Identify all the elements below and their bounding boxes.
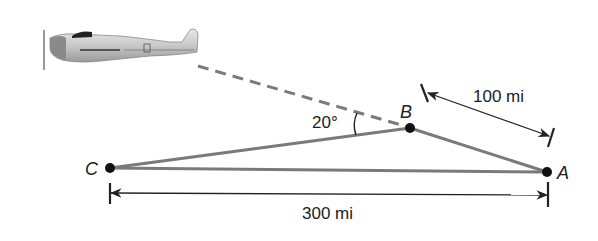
dimension-CA bbox=[111, 193, 547, 195]
line-of-sight bbox=[198, 66, 408, 127]
point-label-B: B bbox=[400, 103, 412, 121]
point-A bbox=[542, 167, 552, 177]
distance-label-BA: 100 mi bbox=[473, 88, 524, 105]
segment-CB bbox=[110, 128, 410, 168]
angle-label: 20° bbox=[312, 114, 338, 131]
airplane-icon bbox=[44, 29, 198, 70]
triangle-diagram bbox=[0, 0, 598, 241]
point-label-C: C bbox=[85, 160, 98, 178]
segment-CA bbox=[110, 168, 547, 172]
point-label-A: A bbox=[557, 164, 569, 182]
point-C bbox=[105, 163, 115, 173]
diagram-canvas: C B A 20° 100 mi 300 mi bbox=[0, 0, 598, 241]
point-B bbox=[405, 123, 415, 133]
segment-BA bbox=[410, 128, 547, 172]
angle-arc bbox=[354, 113, 357, 135]
distance-label-CA: 300 mi bbox=[302, 205, 353, 222]
